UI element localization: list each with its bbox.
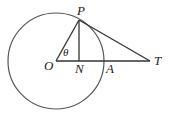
tangent-pt	[79, 20, 150, 61]
label-p: P	[76, 3, 85, 18]
label-n: N	[74, 61, 85, 76]
geometry-diagram: P O N A T θ	[0, 0, 173, 117]
label-theta: θ	[63, 46, 69, 58]
label-o: O	[44, 58, 54, 73]
label-t: T	[154, 53, 162, 68]
diagram-canvas: P O N A T θ	[0, 0, 173, 117]
label-a: A	[105, 61, 114, 76]
